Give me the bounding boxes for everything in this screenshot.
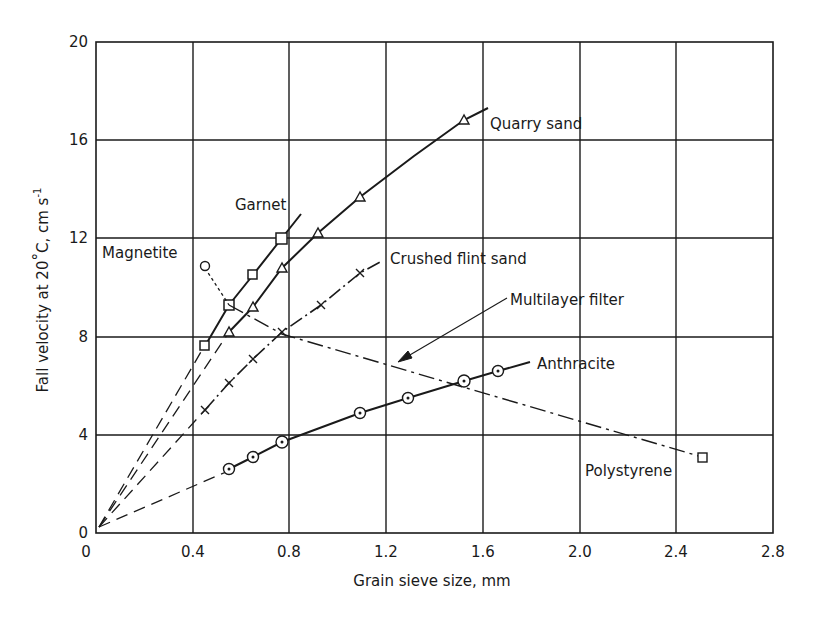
series-anthracite	[224, 362, 531, 475]
x-axis-label: Grain sieve size, mm	[353, 572, 510, 590]
label-quarry-sand: Quarry sand	[490, 115, 582, 133]
polystyrene-marker	[698, 453, 707, 462]
label-magnetite: Magnetite	[102, 244, 178, 262]
y-tick: 20	[69, 33, 88, 51]
y-tick: 16	[69, 131, 88, 149]
y-tick: 8	[78, 328, 88, 346]
series-multilayer-filter	[201, 262, 708, 463]
x-tick: 2.8	[761, 543, 785, 561]
y-tick: 4	[78, 426, 88, 444]
x-tick: 0.8	[277, 543, 301, 561]
series-labels: Garnet Quarry sand Magnetite Crushed fli…	[102, 115, 672, 480]
arrow-head-icon	[398, 351, 412, 362]
label-garnet: Garnet	[235, 196, 286, 214]
x-tick: 2.4	[664, 543, 688, 561]
x-tick: 2.0	[568, 543, 592, 561]
y-tick: 12	[69, 229, 88, 247]
multilayer-arrow	[398, 298, 507, 362]
x-tick: 0.4	[181, 543, 205, 561]
label-anthracite: Anthracite	[537, 355, 615, 373]
y-axis-ticks: 0 4 8 12 16 20	[69, 33, 88, 542]
svg-text:Fall velocity at 20°C, cm s-1: Fall velocity at 20°C, cm s-1	[30, 188, 52, 393]
series-quarry-sand	[224, 108, 488, 336]
extrapolation-lines	[99, 332, 229, 527]
plot-frame	[96, 42, 773, 533]
y-tick: 0	[78, 524, 88, 542]
y-axis-label: Fall velocity at 20°C, cm s-1	[30, 188, 52, 393]
magnetite-marker	[201, 262, 210, 271]
x-tick: 0	[81, 543, 91, 561]
grid	[96, 42, 773, 533]
label-multilayer-filter: Multilayer filter	[510, 291, 625, 309]
fall-velocity-chart: 0 4 8 12 16 20 0 0.4 0.8 1.2 1.6 2.0 2.4…	[0, 0, 817, 622]
x-tick: 1.2	[374, 543, 398, 561]
x-axis-ticks: 0 0.4 0.8 1.2 1.6 2.0 2.4 2.8	[81, 543, 785, 561]
x-tick: 1.6	[471, 543, 495, 561]
label-crushed-flint-sand: Crushed flint sand	[390, 250, 527, 268]
label-polystyrene: Polystyrene	[585, 462, 672, 480]
